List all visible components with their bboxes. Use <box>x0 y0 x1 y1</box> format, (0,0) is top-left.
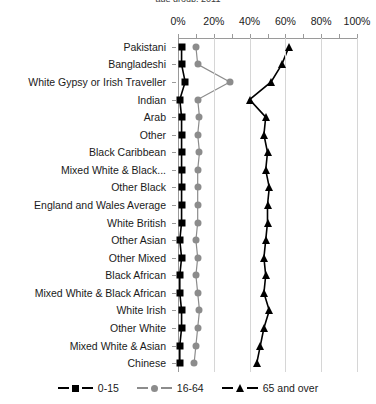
data-point-marker <box>176 96 183 103</box>
y-axis-tick <box>172 170 176 171</box>
y-axis-tick <box>172 205 176 206</box>
data-point-marker <box>264 201 272 209</box>
data-point-marker <box>265 306 273 314</box>
data-point-marker <box>178 166 185 173</box>
y-tick-label: Pakistani <box>123 41 166 53</box>
y-axis-tick <box>172 187 176 188</box>
y-axis-tick <box>172 328 176 329</box>
x-tick-label: 80% <box>311 15 332 27</box>
data-point-marker <box>196 149 203 156</box>
data-point-marker <box>192 237 199 244</box>
y-axis-tick <box>172 223 176 224</box>
y-tick-label: Mixed White & Black African <box>35 287 166 299</box>
y-tick-label: White British <box>107 217 166 229</box>
y-axis-tick <box>172 47 176 48</box>
y-axis-tick <box>172 117 176 118</box>
data-point-marker <box>264 219 272 227</box>
y-tick-label: White Irish <box>116 304 166 316</box>
x-axis-tick <box>321 34 322 38</box>
data-point-marker <box>194 289 201 296</box>
data-point-marker <box>226 78 233 85</box>
y-tick-label: Arab <box>144 111 166 123</box>
x-axis-tick-minor <box>303 34 304 38</box>
data-point-marker <box>262 271 270 279</box>
y-axis-tick <box>172 82 176 83</box>
y-tick-label: Other Black <box>111 181 166 193</box>
data-point-marker <box>194 131 201 138</box>
data-point-marker <box>178 149 185 156</box>
data-point-marker <box>178 202 185 209</box>
x-axis-tick <box>214 34 215 38</box>
data-point-marker <box>262 166 270 174</box>
data-point-marker <box>265 183 273 191</box>
data-point-marker <box>194 219 201 226</box>
y-tick-label: Other <box>140 129 166 141</box>
x-tick-label: 100% <box>344 15 371 27</box>
legend-item[interactable]: 65 and over <box>222 382 318 394</box>
data-point-marker <box>253 359 261 367</box>
data-point-marker <box>176 289 183 296</box>
y-axis-labels: PakistaniBangladeshiWhite Gypsy or Irish… <box>0 38 172 372</box>
data-point-marker <box>191 360 198 367</box>
y-tick-label: Black Caribbean <box>89 146 166 158</box>
x-axis-tick <box>357 34 358 38</box>
data-point-marker <box>178 61 185 68</box>
legend-label: 16-64 <box>177 382 204 394</box>
legend-line <box>161 387 172 389</box>
data-point-marker <box>256 342 264 350</box>
y-tick-label: Bangladeshi <box>108 58 166 70</box>
data-point-marker <box>178 114 185 121</box>
data-point-marker <box>178 184 185 191</box>
gridline-vertical <box>321 38 322 372</box>
chart-container: age group, 2011 0%20%40%60%80%100% Pakis… <box>0 0 376 404</box>
legend-line <box>247 387 258 389</box>
gridline-vertical <box>357 38 358 372</box>
x-axis-tick-minor <box>232 34 233 38</box>
data-point-marker <box>194 61 201 68</box>
data-point-marker <box>176 272 183 279</box>
x-tick-label: 0% <box>170 15 185 27</box>
y-tick-label: Mixed White & Black... <box>61 164 166 176</box>
x-axis-tick <box>285 34 286 38</box>
legend-label: 0-15 <box>98 382 119 394</box>
y-axis-tick <box>172 135 176 136</box>
y-axis-tick <box>172 363 176 364</box>
data-point-marker <box>285 43 293 51</box>
y-tick-label: Other Mixed <box>109 252 166 264</box>
y-axis-tick <box>172 258 176 259</box>
data-point-marker <box>194 325 201 332</box>
chart-title: age group, 2011 <box>0 0 376 2</box>
data-point-marker <box>260 131 268 139</box>
y-axis-tick <box>172 64 176 65</box>
data-point-marker <box>178 131 185 138</box>
y-tick-label: Indian <box>137 94 166 106</box>
y-tick-label: White Gypsy or Irish Traveller <box>28 76 166 88</box>
data-point-marker <box>196 307 203 314</box>
data-point-marker <box>260 289 268 297</box>
legend-item[interactable]: 0-15 <box>58 382 119 394</box>
data-point-marker <box>178 219 185 226</box>
y-tick-label: Chinese <box>127 357 166 369</box>
data-point-marker <box>194 166 201 173</box>
y-tick-label: Other White <box>110 322 166 334</box>
x-axis-labels: 0%20%40%60%80%100% <box>0 15 376 29</box>
y-axis-tick <box>172 346 176 347</box>
data-point-marker <box>267 78 275 86</box>
data-point-marker <box>176 237 183 244</box>
legend-item[interactable]: 16-64 <box>137 382 204 394</box>
y-axis-tick <box>172 152 176 153</box>
gridline-vertical <box>250 38 251 372</box>
data-point-marker <box>262 113 270 121</box>
data-point-marker <box>178 254 185 261</box>
legend-line <box>82 387 93 389</box>
data-point-marker <box>178 307 185 314</box>
data-point-marker <box>260 254 268 262</box>
y-axis-tick <box>172 310 176 311</box>
y-axis-tick <box>172 100 176 101</box>
y-tick-label: Black African <box>105 269 166 281</box>
y-axis-tick <box>172 275 176 276</box>
y-tick-label: Mixed White & Asian <box>70 340 166 352</box>
data-point-marker <box>194 202 201 209</box>
data-point-marker <box>176 360 183 367</box>
chart-legend: 0-1516-6465 and over <box>0 382 376 394</box>
